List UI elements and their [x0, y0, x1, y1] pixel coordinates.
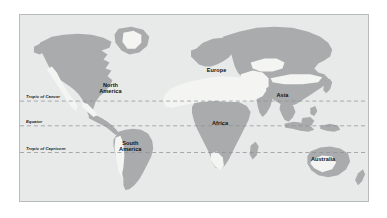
- continent-label-australia: Australia: [311, 156, 335, 162]
- tropic-of-cancer-label: Tropic of Cancer: [26, 95, 60, 99]
- continent-label-north-america: North America: [99, 81, 121, 94]
- continent-label-europe: Europe: [207, 67, 227, 73]
- equator-label: Equator: [26, 120, 42, 124]
- continent-label-asia: Asia: [276, 92, 288, 98]
- world-map-graphic: [20, 15, 368, 201]
- continent-label-africa: Africa: [212, 120, 228, 126]
- map-frame: Tropic of Cancer Equator Tropic of Capri…: [19, 14, 369, 202]
- tropic-of-capricorn-label: Tropic of Capricorn: [26, 147, 66, 151]
- continent-label-south-america: South America: [119, 140, 141, 153]
- world-map-figure: Tropic of Cancer Equator Tropic of Capri…: [0, 0, 387, 218]
